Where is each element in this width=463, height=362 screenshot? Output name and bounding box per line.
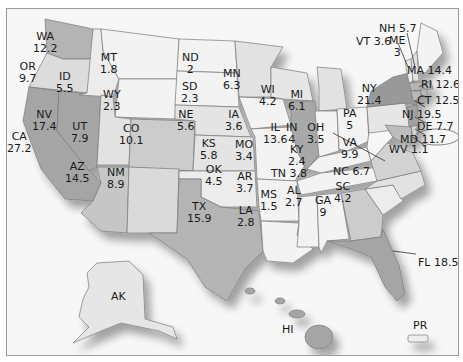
label-TN: TN 3.8 xyxy=(271,168,307,180)
label-KS: KS 5.8 xyxy=(200,138,218,162)
label-PA: PA 5 xyxy=(343,108,356,132)
label-CA: CA 27.2 xyxy=(7,131,32,155)
label-GA: GA 9 xyxy=(315,195,331,219)
label-WI: WI 4.2 xyxy=(259,84,277,108)
label-IL: IL 13.6 xyxy=(263,122,288,146)
label-MS: MS 1.5 xyxy=(260,189,278,213)
label-IA: IA 3.6 xyxy=(225,109,243,133)
label-NC: NC 6.7 xyxy=(333,166,370,178)
label-AZ: AZ 14.5 xyxy=(65,161,90,185)
label-WY: WY 2.3 xyxy=(103,89,121,113)
label-SD: SD 2.3 xyxy=(181,81,199,105)
label-UT: UT 7.9 xyxy=(71,121,89,145)
label-OR: OR 9.7 xyxy=(19,61,37,85)
label-VA: VA 9.9 xyxy=(341,137,359,161)
label-HI: HI xyxy=(282,324,294,336)
label-ND: ND 2 xyxy=(182,52,199,76)
label-LA: LA 2.8 xyxy=(237,205,255,229)
us-state-map: WA 12.2 OR 9.7 ID 5.5 MT 1.8 WY 2.3 NV 1… xyxy=(6,8,459,356)
label-AR: AR 3.7 xyxy=(236,171,254,195)
label-MN: MN 6.3 xyxy=(223,68,241,92)
label-RI: RI 12.6 xyxy=(421,79,459,91)
label-MD: MD 11.7 xyxy=(400,134,446,146)
label-MI: MI 6.1 xyxy=(288,89,306,113)
label-DE: DE 7.7 xyxy=(417,121,453,133)
label-ME: ME 3 xyxy=(389,35,405,59)
label-OK: OK 4.5 xyxy=(205,164,223,188)
label-NV: NV 17.4 xyxy=(32,109,57,133)
label-NY: NY 21.4 xyxy=(357,83,382,107)
state-NM xyxy=(127,167,179,233)
label-MA: MA 14.4 xyxy=(407,65,452,77)
label-MO: MO 3.4 xyxy=(235,139,253,163)
label-ID: ID 5.5 xyxy=(56,71,74,95)
label-OH: OH 3.5 xyxy=(307,122,325,146)
state-WY xyxy=(115,79,177,119)
label-AK: AK xyxy=(111,291,126,303)
label-CO: CO 10.1 xyxy=(119,123,144,147)
label-SC: SC 4.2 xyxy=(334,181,352,205)
label-NM: NM 8.9 xyxy=(107,167,125,191)
label-PR: PR xyxy=(413,320,427,332)
label-NJ: NJ 19.5 xyxy=(402,109,441,121)
state-HI xyxy=(305,325,333,349)
label-CT: CT 12.5 xyxy=(417,95,459,107)
label-AL: AL 2.7 xyxy=(285,185,303,209)
label-NE: NE 5.6 xyxy=(177,109,195,133)
state-MI xyxy=(317,67,347,111)
label-WA: WA 12.2 xyxy=(33,31,58,55)
label-MT: MT 1.8 xyxy=(100,52,118,76)
label-KY: KY 2.4 xyxy=(288,144,306,168)
state-PR xyxy=(408,335,428,342)
label-TX: TX 15.9 xyxy=(187,201,212,225)
label-VT: VT 3.6 xyxy=(356,36,391,48)
label-FL: FL 18.5 xyxy=(418,257,458,269)
